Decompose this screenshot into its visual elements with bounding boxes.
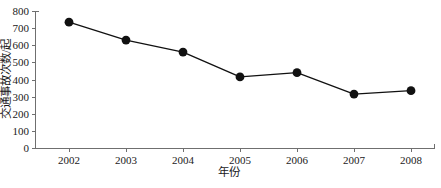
data-point-marker[interactable] [407,86,416,95]
y-axis-tick-label: 600 [13,39,30,51]
y-axis-tick-label: 500 [13,56,30,68]
x-axis-tick-label: 2003 [115,154,138,166]
y-axis-tick-label: 800 [13,5,30,17]
y-axis-tick-label: 300 [13,91,30,103]
y-axis-tick-label: 0 [24,142,30,154]
data-point-marker[interactable] [350,90,359,99]
x-axis-tick-label: 2008 [400,154,423,166]
x-axis-tick-label: 2007 [343,154,366,166]
data-point-marker[interactable] [122,36,131,45]
series-line [69,22,411,94]
chart-canvas: 0100200300400500600700800200220032004200… [0,0,441,188]
y-axis-tick-label: 400 [13,74,30,86]
x-axis-title: 年份 [218,165,241,178]
y-axis-tick-label: 100 [13,125,30,137]
x-axis-tick-label: 2006 [286,154,309,166]
data-point-marker[interactable] [179,48,188,57]
data-point-marker[interactable] [236,73,245,82]
data-point-marker[interactable] [293,68,302,77]
x-axis-tick-label: 2002 [58,154,80,166]
line-chart: 0100200300400500600700800200220032004200… [0,0,441,188]
y-axis-tick-label: 200 [13,108,30,120]
data-point-marker[interactable] [65,18,74,27]
x-axis-tick-label: 2004 [172,154,195,166]
y-axis-title: 交通事故次数/起 [0,38,12,119]
y-axis-tick-label: 700 [13,22,30,34]
x-axis-tick-label: 2005 [229,154,252,166]
